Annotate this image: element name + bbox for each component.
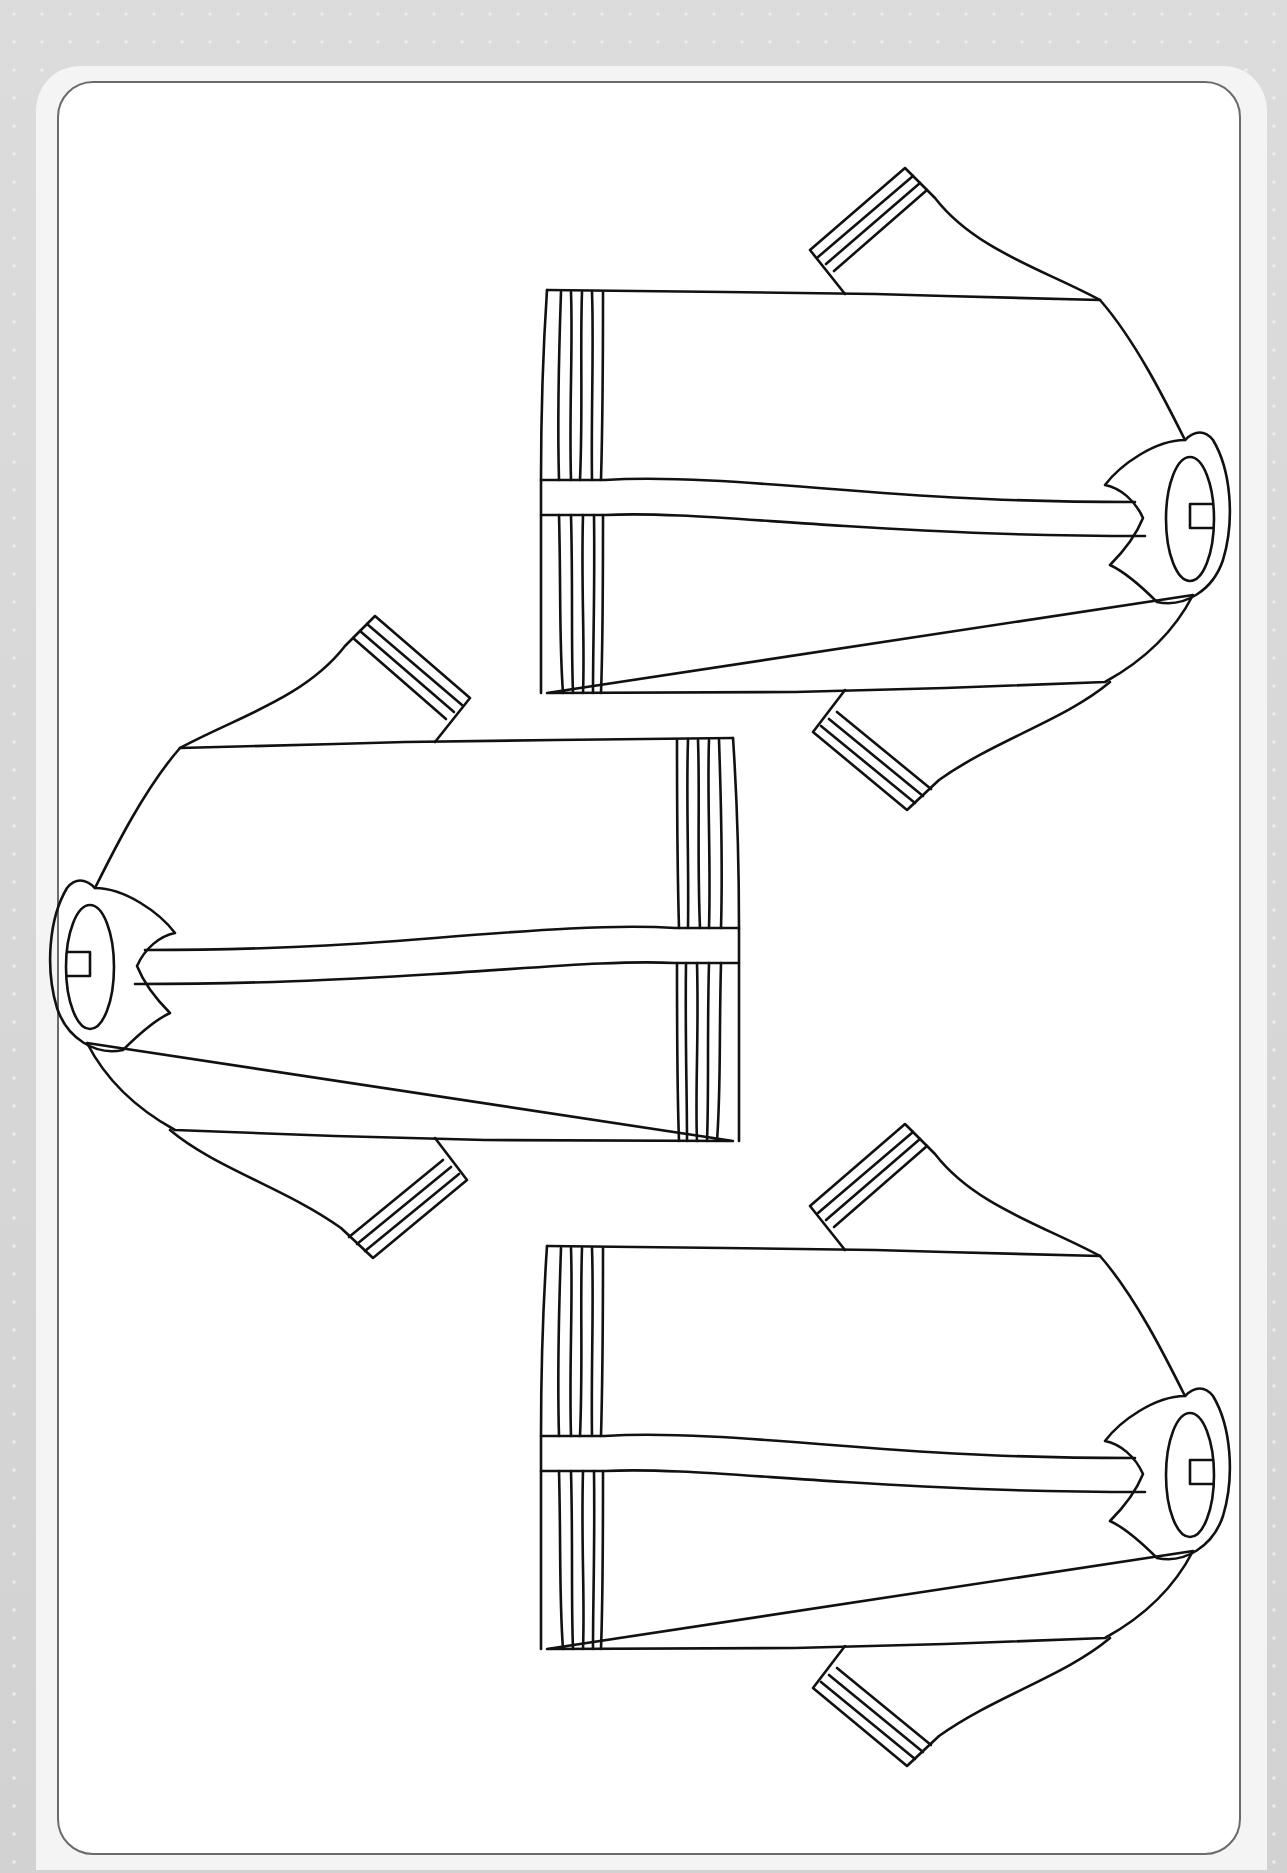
jacket-middle-left — [50, 616, 739, 1258]
jacket-illustration — [0, 0, 1287, 1873]
jacket-bottom-right — [541, 1124, 1230, 1766]
jacket-top-right — [541, 168, 1230, 810]
